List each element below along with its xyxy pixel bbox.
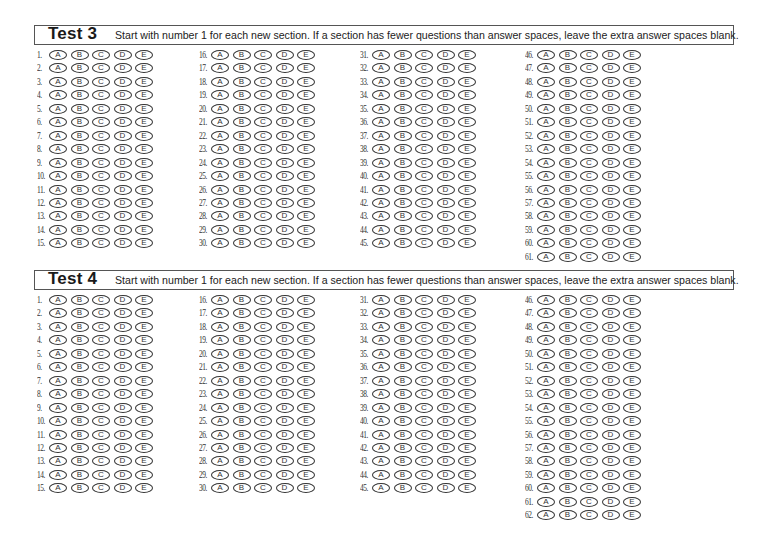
answer-bubble-c[interactable]: C — [580, 389, 598, 399]
answer-bubble-a[interactable]: A — [49, 362, 67, 372]
answer-bubble-e[interactable]: E — [623, 131, 641, 141]
answer-bubble-d[interactable]: D — [602, 322, 620, 332]
answer-bubble-b[interactable]: B — [559, 497, 577, 507]
answer-bubble-c[interactable]: C — [254, 295, 272, 305]
answer-bubble-c[interactable]: C — [254, 158, 272, 168]
answer-bubble-d[interactable]: D — [114, 389, 132, 399]
answer-bubble-a[interactable]: A — [211, 238, 229, 248]
answer-bubble-b[interactable]: B — [559, 211, 577, 221]
answer-bubble-a[interactable]: A — [537, 238, 555, 248]
answer-bubble-e[interactable]: E — [458, 308, 476, 318]
answer-bubble-b[interactable]: B — [394, 171, 412, 181]
answer-bubble-a[interactable]: A — [49, 158, 67, 168]
answer-bubble-a[interactable]: A — [372, 131, 390, 141]
answer-bubble-d[interactable]: D — [114, 443, 132, 453]
answer-bubble-e[interactable]: E — [458, 158, 476, 168]
answer-bubble-a[interactable]: A — [372, 144, 390, 154]
answer-bubble-c[interactable]: C — [580, 131, 598, 141]
answer-bubble-a[interactable]: A — [537, 510, 555, 520]
answer-bubble-a[interactable]: A — [49, 389, 67, 399]
answer-bubble-b[interactable]: B — [394, 238, 412, 248]
answer-bubble-a[interactable]: A — [49, 322, 67, 332]
answer-bubble-e[interactable]: E — [297, 238, 315, 248]
answer-bubble-d[interactable]: D — [437, 117, 455, 127]
answer-bubble-d[interactable]: D — [602, 362, 620, 372]
answer-bubble-a[interactable]: A — [49, 171, 67, 181]
answer-bubble-d[interactable]: D — [602, 349, 620, 359]
answer-bubble-d[interactable]: D — [437, 77, 455, 87]
answer-bubble-c[interactable]: C — [580, 63, 598, 73]
answer-bubble-e[interactable]: E — [135, 77, 153, 87]
answer-bubble-c[interactable]: C — [254, 50, 272, 60]
answer-bubble-c[interactable]: C — [415, 144, 433, 154]
answer-bubble-c[interactable]: C — [254, 144, 272, 154]
answer-bubble-b[interactable]: B — [394, 225, 412, 235]
answer-bubble-c[interactable]: C — [254, 335, 272, 345]
answer-bubble-b[interactable]: B — [394, 77, 412, 87]
answer-bubble-d[interactable]: D — [114, 416, 132, 426]
answer-bubble-b[interactable]: B — [71, 144, 89, 154]
answer-bubble-e[interactable]: E — [623, 198, 641, 208]
answer-bubble-b[interactable]: B — [394, 403, 412, 413]
answer-bubble-e[interactable]: E — [458, 483, 476, 493]
answer-bubble-b[interactable]: B — [233, 456, 251, 466]
answer-bubble-b[interactable]: B — [559, 510, 577, 520]
answer-bubble-d[interactable]: D — [437, 456, 455, 466]
answer-bubble-d[interactable]: D — [437, 238, 455, 248]
answer-bubble-b[interactable]: B — [394, 308, 412, 318]
answer-bubble-c[interactable]: C — [415, 185, 433, 195]
answer-bubble-d[interactable]: D — [602, 158, 620, 168]
answer-bubble-d[interactable]: D — [602, 50, 620, 60]
answer-bubble-c[interactable]: C — [254, 131, 272, 141]
answer-bubble-a[interactable]: A — [372, 362, 390, 372]
answer-bubble-b[interactable]: B — [71, 430, 89, 440]
answer-bubble-a[interactable]: A — [49, 403, 67, 413]
answer-bubble-b[interactable]: B — [233, 50, 251, 60]
answer-bubble-e[interactable]: E — [135, 117, 153, 127]
answer-bubble-b[interactable]: B — [394, 211, 412, 221]
answer-bubble-c[interactable]: C — [580, 430, 598, 440]
answer-bubble-a[interactable]: A — [537, 456, 555, 466]
answer-bubble-d[interactable]: D — [114, 295, 132, 305]
answer-bubble-d[interactable]: D — [114, 77, 132, 87]
answer-bubble-c[interactable]: C — [415, 322, 433, 332]
answer-bubble-b[interactable]: B — [559, 238, 577, 248]
answer-bubble-d[interactable]: D — [602, 497, 620, 507]
answer-bubble-d[interactable]: D — [276, 90, 294, 100]
answer-bubble-c[interactable]: C — [254, 403, 272, 413]
answer-bubble-d[interactable]: D — [276, 456, 294, 466]
answer-bubble-a[interactable]: A — [372, 483, 390, 493]
answer-bubble-a[interactable]: A — [211, 211, 229, 221]
answer-bubble-a[interactable]: A — [211, 198, 229, 208]
answer-bubble-a[interactable]: A — [211, 225, 229, 235]
answer-bubble-b[interactable]: B — [233, 322, 251, 332]
answer-bubble-c[interactable]: C — [415, 443, 433, 453]
answer-bubble-b[interactable]: B — [559, 104, 577, 114]
answer-bubble-a[interactable]: A — [211, 185, 229, 195]
answer-bubble-a[interactable]: A — [211, 376, 229, 386]
answer-bubble-a[interactable]: A — [372, 376, 390, 386]
answer-bubble-d[interactable]: D — [276, 158, 294, 168]
answer-bubble-a[interactable]: A — [537, 50, 555, 60]
answer-bubble-b[interactable]: B — [559, 63, 577, 73]
answer-bubble-c[interactable]: C — [580, 104, 598, 114]
answer-bubble-c[interactable]: C — [580, 295, 598, 305]
answer-bubble-c[interactable]: C — [92, 335, 110, 345]
answer-bubble-c[interactable]: C — [254, 443, 272, 453]
answer-bubble-d[interactable]: D — [602, 131, 620, 141]
answer-bubble-a[interactable]: A — [211, 308, 229, 318]
answer-bubble-d[interactable]: D — [276, 171, 294, 181]
answer-bubble-d[interactable]: D — [114, 225, 132, 235]
answer-bubble-d[interactable]: D — [602, 238, 620, 248]
answer-bubble-a[interactable]: A — [211, 117, 229, 127]
answer-bubble-c[interactable]: C — [254, 117, 272, 127]
answer-bubble-b[interactable]: B — [233, 158, 251, 168]
answer-bubble-e[interactable]: E — [458, 389, 476, 399]
answer-bubble-c[interactable]: C — [254, 430, 272, 440]
answer-bubble-a[interactable]: A — [211, 90, 229, 100]
answer-bubble-e[interactable]: E — [297, 322, 315, 332]
answer-bubble-b[interactable]: B — [233, 225, 251, 235]
answer-bubble-e[interactable]: E — [458, 63, 476, 73]
answer-bubble-c[interactable]: C — [92, 376, 110, 386]
answer-bubble-e[interactable]: E — [458, 238, 476, 248]
